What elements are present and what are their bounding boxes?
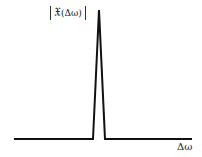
spectrum-line — [14, 10, 192, 139]
chart-plot — [0, 0, 202, 157]
y-axis-label: 𝔛(Δω) — [47, 6, 89, 20]
x-axis-label: Δω — [177, 141, 192, 152]
